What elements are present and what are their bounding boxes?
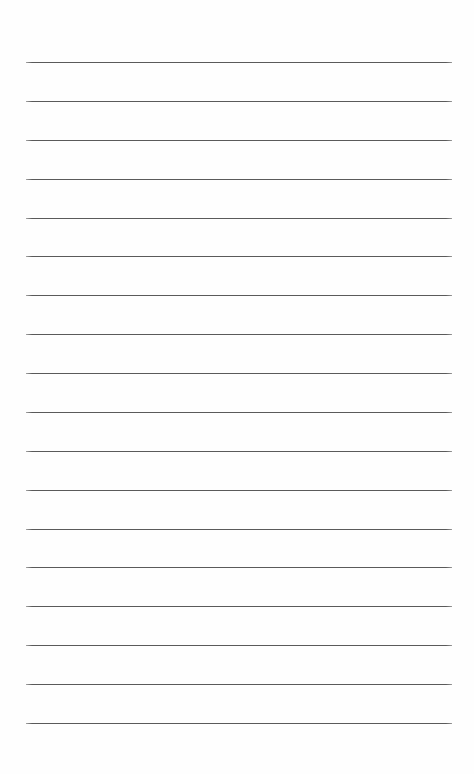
rule-line — [26, 684, 452, 685]
rule-line — [26, 723, 452, 724]
rule-line — [26, 567, 452, 568]
rule-line — [26, 645, 452, 646]
rule-line — [26, 412, 452, 413]
rule-line — [26, 179, 452, 180]
rule-line — [26, 295, 452, 296]
rule-line — [26, 256, 452, 257]
lined-paper-page — [0, 0, 474, 774]
rule-line — [26, 451, 452, 452]
rule-line — [26, 373, 452, 374]
rule-line — [26, 218, 452, 219]
rule-line — [26, 490, 452, 491]
rule-line — [26, 529, 452, 530]
rule-line — [26, 101, 452, 102]
paper-sheet — [0, 0, 474, 774]
rule-line — [26, 334, 452, 335]
rule-line — [26, 140, 452, 141]
rule-line — [26, 62, 452, 63]
rule-line — [26, 606, 452, 607]
